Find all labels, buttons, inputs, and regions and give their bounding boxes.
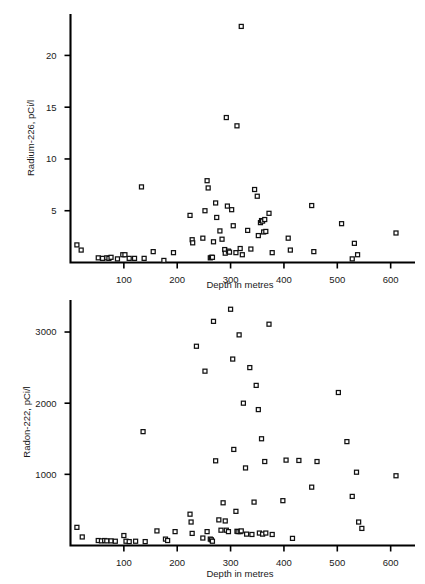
data-point-marker	[239, 529, 243, 533]
x-tick-label: 300	[223, 557, 239, 568]
data-point-marker	[263, 218, 267, 222]
data-point-marker	[189, 520, 193, 524]
data-point-marker	[245, 532, 249, 536]
data-point-marker	[142, 256, 146, 260]
radium-226-axes: 5101520 100200300400500600	[46, 14, 415, 285]
data-point-marker	[201, 536, 205, 540]
radium-226-data-points	[75, 24, 398, 262]
data-point-marker	[191, 241, 195, 245]
data-point-marker	[206, 186, 210, 190]
data-point-marker	[264, 229, 268, 233]
data-point-marker	[360, 526, 364, 530]
y-axis-ticks: 5101520	[46, 50, 71, 216]
data-point-marker	[171, 251, 175, 255]
x-tick-label: 100	[116, 557, 132, 568]
y-tick-label: 20	[46, 50, 57, 61]
data-point-marker	[270, 251, 274, 255]
data-point-marker	[352, 241, 356, 245]
data-point-marker	[96, 256, 100, 260]
data-point-marker	[228, 250, 232, 254]
data-point-marker	[105, 539, 109, 543]
data-point-marker	[237, 333, 241, 337]
figure-page: 5101520 100200300400500600 Radium-226, p…	[0, 0, 425, 584]
data-point-marker	[215, 215, 219, 219]
y-tick-label: 15	[46, 102, 57, 113]
y-tick-label: 2000	[35, 398, 56, 409]
data-point-marker	[230, 208, 234, 212]
data-point-marker	[310, 485, 314, 489]
data-point-marker	[231, 224, 235, 228]
data-point-marker	[263, 460, 267, 464]
data-point-marker	[225, 204, 229, 208]
data-point-marker	[210, 255, 214, 259]
data-point-marker	[241, 401, 245, 405]
data-point-marker	[203, 209, 207, 213]
data-point-marker	[340, 222, 344, 226]
data-point-marker	[220, 237, 224, 241]
axis-lines	[71, 14, 416, 263]
x-tick-label: 500	[329, 557, 345, 568]
data-point-marker	[229, 307, 233, 311]
data-point-marker	[240, 253, 244, 257]
data-point-marker	[336, 391, 340, 395]
data-point-marker	[224, 116, 228, 120]
data-point-marker	[290, 536, 294, 540]
data-point-marker	[248, 366, 252, 370]
radium-226-chart: 5101520 100200300400500600 Radium-226, p…	[0, 0, 425, 292]
data-point-marker	[141, 430, 145, 434]
data-point-marker	[205, 530, 209, 534]
data-point-marker	[234, 251, 238, 255]
data-point-marker	[212, 240, 216, 244]
data-point-marker	[143, 540, 147, 544]
x-axis-title: Depth in metres	[206, 568, 273, 579]
x-tick-label: 200	[169, 557, 185, 568]
data-point-marker	[270, 532, 274, 536]
y-tick-label: 1000	[35, 469, 56, 480]
x-tick-label: 100	[116, 274, 132, 285]
data-point-marker	[203, 369, 207, 373]
data-point-marker	[394, 474, 398, 478]
x-axis-ticks: 100200300400500600	[116, 546, 399, 568]
data-point-marker	[219, 528, 223, 532]
data-point-marker	[109, 539, 113, 543]
x-tick-label: 600	[383, 557, 399, 568]
data-point-marker	[217, 518, 221, 522]
data-point-marker	[123, 253, 127, 257]
data-point-marker	[79, 248, 83, 252]
data-point-marker	[239, 24, 243, 28]
data-point-marker	[350, 257, 354, 261]
data-point-marker	[122, 534, 126, 538]
data-point-marker	[249, 247, 253, 251]
data-point-marker	[297, 458, 301, 462]
data-point-marker	[133, 256, 137, 260]
data-point-marker	[253, 188, 257, 192]
radon-222-data-points	[75, 307, 398, 543]
data-point-marker	[75, 525, 79, 529]
data-point-marker	[166, 539, 170, 543]
radon-222-plot-svg: 100020003000 100200300400500600 Radon-22…	[0, 292, 425, 584]
data-point-marker	[212, 319, 216, 323]
data-point-marker	[256, 234, 260, 238]
data-point-marker	[288, 248, 292, 252]
axis-lines	[71, 300, 416, 546]
data-point-marker	[101, 256, 105, 260]
radon-222-chart: 100020003000 100200300400500600 Radon-22…	[0, 292, 425, 584]
data-point-marker	[231, 357, 235, 361]
data-point-marker	[244, 466, 248, 470]
data-point-marker	[109, 255, 113, 259]
data-point-marker	[286, 236, 290, 240]
data-point-marker	[232, 447, 236, 451]
x-tick-label: 500	[329, 274, 345, 285]
data-point-marker	[250, 532, 254, 536]
data-point-marker	[394, 231, 398, 235]
x-tick-label: 600	[383, 274, 399, 285]
data-point-marker	[115, 257, 119, 261]
data-point-marker	[260, 437, 264, 441]
data-point-marker	[234, 509, 238, 513]
data-point-marker	[255, 194, 259, 198]
data-point-marker	[173, 530, 177, 534]
data-point-marker	[201, 236, 205, 240]
data-point-marker	[127, 540, 131, 544]
data-point-marker	[214, 459, 218, 463]
data-point-marker	[162, 258, 166, 262]
